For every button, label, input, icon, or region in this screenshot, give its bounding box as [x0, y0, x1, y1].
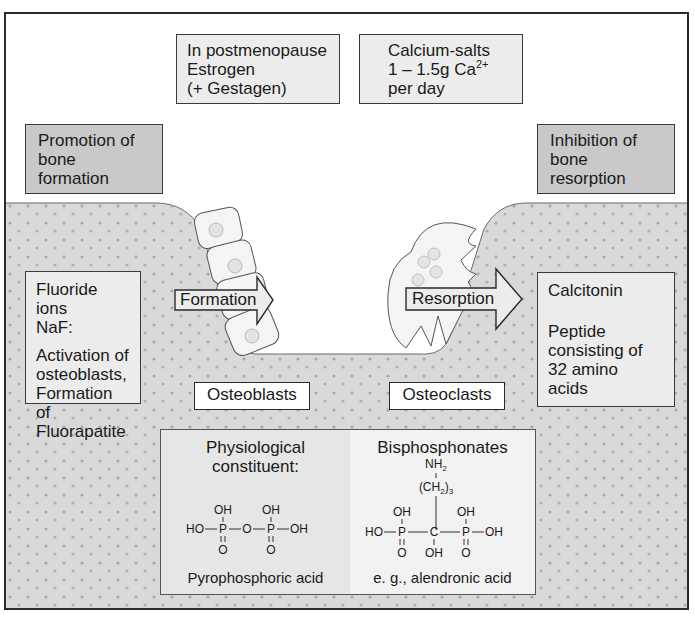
- calcitonin-desc-1: Peptide: [548, 322, 664, 341]
- fluoride-desc-1: Activation of: [36, 346, 130, 365]
- resorption-label: Resorption: [412, 289, 494, 309]
- pyrophosphate-section: Physiological constituent: OH OH HO P O …: [161, 430, 350, 594]
- estrogen-line-3: (+ Gestagen): [187, 79, 329, 98]
- pyrophosphoric-acid-structure: OH OH HO P O P OH O O: [161, 488, 350, 568]
- svg-text:OH: OH: [290, 522, 308, 536]
- calcitonin-box: Calcitonin Peptide consisting of 32 amin…: [537, 272, 675, 407]
- inhibition-line-3: resorption: [550, 169, 664, 188]
- bisphosphonates-section: Bisphosphonates NH2 (CH2)3 OH OH HO P C …: [350, 430, 535, 594]
- estrogen-line-2: Estrogen: [187, 60, 329, 79]
- svg-text:HO: HO: [365, 525, 383, 539]
- pyrophosphoric-acid-caption: Pyrophosphoric acid: [161, 569, 350, 586]
- fluoride-desc-2: osteoblasts,: [36, 365, 130, 384]
- svg-text:P: P: [267, 522, 275, 536]
- svg-text:O: O: [218, 543, 227, 557]
- calcium-supplement-box: Calcium-salts 1 – 1.5g Ca2+ per day: [359, 34, 523, 104]
- svg-text:OH: OH: [262, 503, 280, 517]
- estrogen-line-1: In postmenopause: [187, 41, 329, 60]
- calcitonin-desc-4: acids: [548, 379, 664, 398]
- calcitonin-spacer: [548, 300, 664, 322]
- estrogen-therapy-box: In postmenopause Estrogen (+ Gestagen): [176, 34, 340, 104]
- osteoblasts-label: Osteoblasts: [194, 382, 310, 410]
- fluoride-line-2: NaF:: [36, 318, 130, 337]
- calcium-line-3: per day: [388, 79, 512, 98]
- svg-text:O: O: [397, 546, 406, 560]
- svg-text:(CH2)3: (CH2)3: [419, 480, 454, 496]
- promotion-line-1: Promotion of: [38, 131, 152, 150]
- fluoride-desc-3: Formation of: [36, 384, 130, 422]
- calcium-line-2: 1 – 1.5g Ca2+: [388, 60, 512, 79]
- svg-text:NH2: NH2: [425, 457, 447, 473]
- svg-text:OH: OH: [393, 505, 411, 519]
- physiological-title-line-1: Physiological: [161, 438, 350, 457]
- svg-text:OH: OH: [457, 505, 475, 519]
- svg-text:P: P: [462, 525, 470, 539]
- alendronic-acid-structure: NH2 (CH2)3 OH OH HO P C P OH: [350, 452, 535, 582]
- calcium-dose: 1 – 1.5g Ca: [388, 60, 476, 79]
- promotion-bone-formation-box: Promotion of bone formation: [25, 124, 163, 194]
- calcitonin-desc-2: consisting of: [548, 341, 664, 360]
- svg-text:O: O: [242, 522, 251, 536]
- calcitonin-title: Calcitonin: [548, 281, 664, 300]
- svg-text:HO: HO: [186, 522, 204, 536]
- physiological-title: Physiological constituent:: [161, 438, 350, 476]
- promotion-line-2: bone: [38, 150, 152, 169]
- diagram-frame: In postmenopause Estrogen (+ Gestagen) C…: [4, 12, 689, 610]
- chemistry-panel: Physiological constituent: OH OH HO P O …: [160, 429, 536, 595]
- fluoride-desc-4: Fluorapatite: [36, 422, 130, 441]
- calcitonin-desc-3: 32 amino: [548, 360, 664, 379]
- osteoclasts-label: Osteoclasts: [389, 382, 505, 410]
- fluoride-spacer: [36, 337, 130, 346]
- calcium-charge: 2+: [476, 58, 489, 70]
- formation-label: Formation: [180, 290, 257, 310]
- svg-text:OH: OH: [485, 525, 503, 539]
- svg-text:OH: OH: [214, 503, 232, 517]
- svg-text:P: P: [219, 522, 227, 536]
- svg-text:OH: OH: [425, 546, 443, 560]
- svg-text:O: O: [461, 546, 470, 560]
- svg-text:O: O: [266, 543, 275, 557]
- calcium-line-1: Calcium-salts: [388, 41, 512, 60]
- physiological-title-line-2: constituent:: [161, 457, 350, 476]
- svg-text:C: C: [430, 525, 439, 539]
- promotion-line-3: formation: [38, 169, 152, 188]
- fluoride-box: Fluoride ions NaF: Activation of osteobl…: [25, 271, 141, 404]
- svg-text:P: P: [398, 525, 406, 539]
- inhibition-line-1: Inhibition of: [550, 131, 664, 150]
- inhibition-line-2: bone: [550, 150, 664, 169]
- alendronic-acid-caption: e. g., alendronic acid: [350, 569, 535, 586]
- fluoride-line-1: Fluoride ions: [36, 280, 130, 318]
- inhibition-bone-resorption-box: Inhibition of bone resorption: [537, 124, 675, 194]
